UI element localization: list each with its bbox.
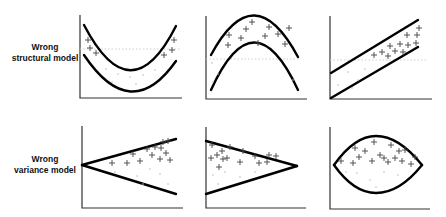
y-axis: [80, 15, 182, 98]
residual-diagrams: [0, 0, 446, 217]
plus-markers: [338, 139, 418, 167]
panel-u-shaped-band: [80, 15, 182, 98]
lower-funnel-line: [82, 165, 176, 194]
panel-lens-shape: [330, 127, 430, 209]
panel-inverted-u-band: [206, 15, 307, 99]
plus-markers: [208, 142, 279, 170]
upper-funnel-line: [82, 139, 176, 165]
faint-markers: [212, 171, 256, 185]
panel-widening-funnel: [82, 126, 183, 208]
upper-funnel-line: [206, 141, 297, 166]
lower-band-curve: [211, 43, 298, 91]
lower-lens-curve: [334, 165, 422, 193]
upper-band-curve: [84, 25, 176, 70]
panel-narrowing-funnel: [206, 127, 306, 208]
lower-funnel-line: [206, 166, 297, 194]
upper-lens-curve: [334, 136, 422, 165]
plus-markers: [371, 25, 422, 59]
y-axis: [330, 127, 430, 209]
upper-band-line: [331, 20, 418, 73]
lower-band-curve: [84, 55, 176, 92]
plus-markers: [109, 138, 173, 166]
panel-linear-band: [330, 16, 432, 99]
